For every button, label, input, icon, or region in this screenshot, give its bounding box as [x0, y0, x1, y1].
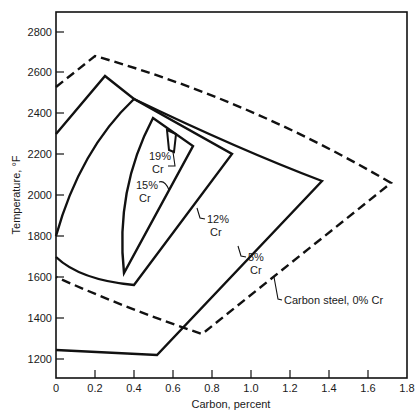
chart-svg: 1200 1400 1600 1800 2000 2200 2400 2600 … [0, 0, 420, 420]
svg-text:Carbon steel, 0% Cr: Carbon steel, 0% Cr [284, 294, 383, 306]
annotation-5cr: 5% Cr [238, 246, 264, 276]
y-tick-label: 1200 [28, 353, 52, 365]
svg-text:Cr: Cr [139, 192, 151, 204]
svg-text:19%: 19% [149, 150, 171, 162]
chart-container: 1200 1400 1600 1800 2000 2200 2400 2600 … [0, 0, 420, 420]
x-tick-label: 1.4 [321, 382, 336, 394]
svg-text:Cr: Cr [210, 226, 222, 238]
series-carbon-steel-0cr [56, 56, 391, 334]
x-tick-label: 1.6 [360, 382, 375, 394]
y-tick-label: 2400 [28, 107, 52, 119]
y-tick-label: 2200 [28, 148, 52, 160]
series-19cr [167, 130, 176, 152]
svg-text:Cr: Cr [152, 163, 164, 175]
annotation-19cr: 19% Cr [149, 150, 175, 175]
x-axis-title: Carbon, percent [192, 398, 271, 410]
plot-frame [56, 12, 407, 378]
y-tick-label: 2800 [28, 26, 52, 38]
x-axis: 0 0.2 0.4 0.6 0.8 1.0 1.2 1.4 1.6 1.8 Ca… [53, 370, 415, 410]
svg-text:Cr: Cr [250, 264, 262, 276]
y-tick-label: 2000 [28, 189, 52, 201]
series-5cr [56, 76, 322, 355]
x-tick-label: 0.2 [87, 382, 102, 394]
annotation-carbon-steel: Carbon steel, 0% Cr [274, 277, 383, 306]
x-tick-label: 0 [53, 382, 59, 394]
svg-text:12%: 12% [207, 213, 229, 225]
svg-text:15%: 15% [136, 179, 158, 191]
annotation-12cr: 12% Cr [197, 208, 229, 238]
y-tick-label: 1600 [28, 271, 52, 283]
series-15cr [122, 118, 193, 273]
svg-text:5%: 5% [248, 251, 264, 263]
y-tick-label: 1400 [28, 312, 52, 324]
x-tick-label: 1.2 [282, 382, 297, 394]
y-tick-label: 2600 [28, 66, 52, 78]
x-tick-label: 1.8 [399, 382, 414, 394]
y-tick-label: 1800 [28, 230, 52, 242]
x-tick-label: 0.6 [165, 382, 180, 394]
y-axis-title: Temperature, °F [10, 155, 22, 234]
x-tick-label: 1.0 [243, 382, 258, 394]
x-tick-label: 0.8 [204, 382, 219, 394]
x-tick-label: 0.4 [126, 382, 141, 394]
